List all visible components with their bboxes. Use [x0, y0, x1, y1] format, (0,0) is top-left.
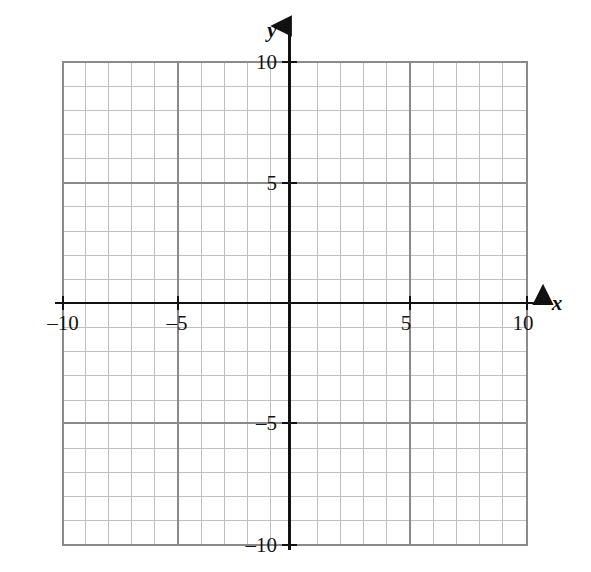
y-axis-label: y: [264, 18, 277, 42]
y-tick-label--10: –10: [245, 533, 278, 557]
x-tick-label-10: 10: [513, 311, 534, 335]
y-tick-label--5: –5: [255, 411, 277, 435]
y-tick-label-5: 5: [267, 171, 278, 195]
y-tick-label-10: 10: [256, 50, 277, 74]
x-tick-label--5: –5: [166, 311, 188, 335]
x-tick-label--10: –10: [46, 311, 79, 335]
coordinate-plane: y x –10 –5 5 10 10 5 –5 –10: [0, 0, 591, 572]
x-tick-label-5: 5: [401, 311, 412, 335]
x-axis-label: x: [551, 291, 563, 315]
coordinate-grid-svg: y x –10 –5 5 10 10 5 –5 –10: [0, 0, 591, 572]
